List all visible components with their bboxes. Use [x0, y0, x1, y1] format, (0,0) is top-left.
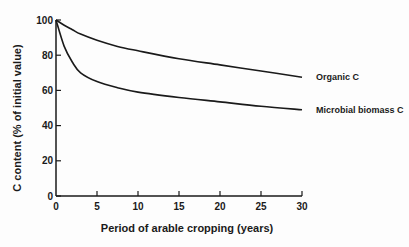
y-tick-label: 40 — [42, 120, 54, 131]
y-tick-label: 100 — [36, 15, 53, 26]
x-tick-label: 0 — [53, 201, 59, 212]
chart: 020406080100051015202530Organic CMicrobi… — [0, 0, 409, 247]
x-tick-label: 20 — [214, 201, 226, 212]
organic-c-line — [56, 20, 302, 77]
x-tick-label: 25 — [255, 201, 267, 212]
y-tick-label: 20 — [42, 155, 54, 166]
y-tick-label: 80 — [42, 50, 54, 61]
series-label: Organic C — [316, 72, 360, 82]
y-axis-label: C content (% of initial value) — [11, 44, 23, 192]
x-tick-label: 10 — [132, 201, 144, 212]
microbial-biomass-c-line — [56, 20, 302, 110]
x-axis-label: Period of arable cropping (years) — [101, 222, 274, 234]
y-tick-label: 60 — [42, 85, 54, 96]
y-tick-label: 0 — [47, 191, 53, 202]
x-tick-label: 5 — [94, 201, 100, 212]
series-label: Microbial biomass C — [316, 105, 404, 115]
x-tick-label: 15 — [173, 201, 185, 212]
x-tick-label: 30 — [296, 201, 308, 212]
line-chart: 020406080100051015202530Organic CMicrobi… — [0, 0, 409, 247]
